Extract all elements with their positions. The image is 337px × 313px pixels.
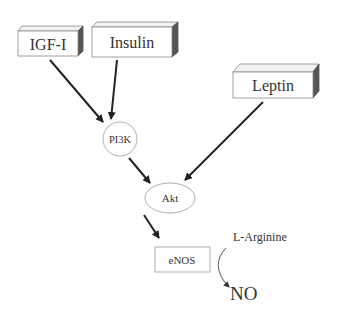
insulin-label: Insulin <box>110 34 154 51</box>
akt-label: Akt <box>162 192 179 204</box>
leptin-label: Leptin <box>252 77 294 95</box>
arrow-insulin-to-pi3k <box>111 60 117 119</box>
pi3k-node: PI3K <box>103 122 137 156</box>
arrow-leptin-to-akt <box>185 102 263 180</box>
enos-node: eNOS <box>155 247 210 272</box>
arrow-akt-to-enos <box>144 215 159 238</box>
no-label: NO <box>230 283 257 304</box>
enos-label: eNOS <box>169 254 196 266</box>
pi3k-label: PI3K <box>109 134 132 145</box>
arrow-igf1-to-pi3k <box>50 60 103 122</box>
insulin-box: Insulin <box>92 22 178 57</box>
igf1-box: IGF-I <box>18 26 83 56</box>
l-arginine-label: L-Arginine <box>233 230 287 244</box>
leptin-box: Leptin <box>233 64 319 98</box>
arrow-larginine-to-no <box>218 248 229 287</box>
igf1-label: IGF-I <box>30 36 66 53</box>
arrow-pi3k-to-akt <box>129 158 150 183</box>
signaling-pathway-diagram: IGF-I Insulin Leptin PI3K Akt eNOS L-Arg… <box>0 0 337 313</box>
akt-node: Akt <box>145 183 195 213</box>
